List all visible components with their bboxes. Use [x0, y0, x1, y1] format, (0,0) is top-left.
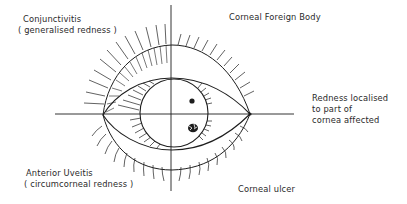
circumcorneal-hatching [118, 81, 160, 148]
label-conjunctivitis-subtitle: ( generalised redness ) [18, 25, 117, 36]
label-localised-redness-line2: to part of [312, 104, 388, 115]
label-anterior-uveitis: Anterior Uveitis ( circumcorneal redness… [24, 168, 133, 190]
label-conjunctivitis: Conjunctivitis ( generalised redness ) [18, 14, 117, 36]
label-localised-redness-line1: Redness localised [312, 93, 388, 104]
foreign-body-dot [189, 98, 194, 103]
foreign-body-rays [178, 34, 254, 96]
iris-circle [140, 79, 208, 147]
label-anterior-uveitis-title: Anterior Uveitis [24, 168, 133, 179]
label-corneal-foreign-body: Corneal Foreign Body [229, 12, 321, 23]
label-corneal-ulcer: Corneal ulcer [238, 184, 295, 195]
label-localised-redness: Redness localised to part of cornea affe… [312, 93, 388, 126]
localised-redness-rays-lower [199, 121, 212, 140]
label-conjunctivitis-title: Conjunctivitis [18, 14, 117, 25]
corneal-ulcer-mark [188, 124, 198, 133]
label-anterior-uveitis-subtitle: ( circumcorneal redness ) [24, 179, 133, 190]
label-localised-redness-line3: cornea affected [312, 115, 388, 126]
right-corner-point [248, 112, 251, 115]
outer-conjunctiva-outline [103, 45, 250, 170]
